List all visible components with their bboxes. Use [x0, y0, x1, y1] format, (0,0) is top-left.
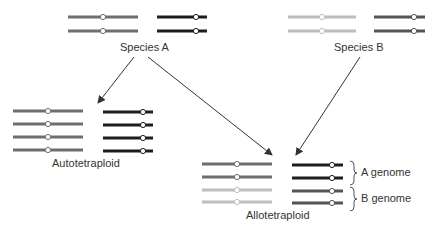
autotetraploid-label: Autotetraploid	[52, 157, 120, 169]
a-genome-label: A genome	[361, 166, 411, 178]
species-b-chromosomes	[288, 14, 425, 33]
b-genome-label: B genome	[361, 192, 411, 204]
genome-braces	[350, 161, 357, 211]
species-a-label: Species A	[120, 41, 169, 53]
species-b-label: Species B	[334, 41, 384, 53]
species-a-chromosomes	[68, 14, 207, 33]
allotetraploid-chromosomes	[202, 161, 343, 205]
allotetraploid-label: Allotetraploid	[246, 209, 310, 221]
arrows	[98, 57, 360, 155]
autotetraploid-chromosomes	[13, 108, 153, 153]
